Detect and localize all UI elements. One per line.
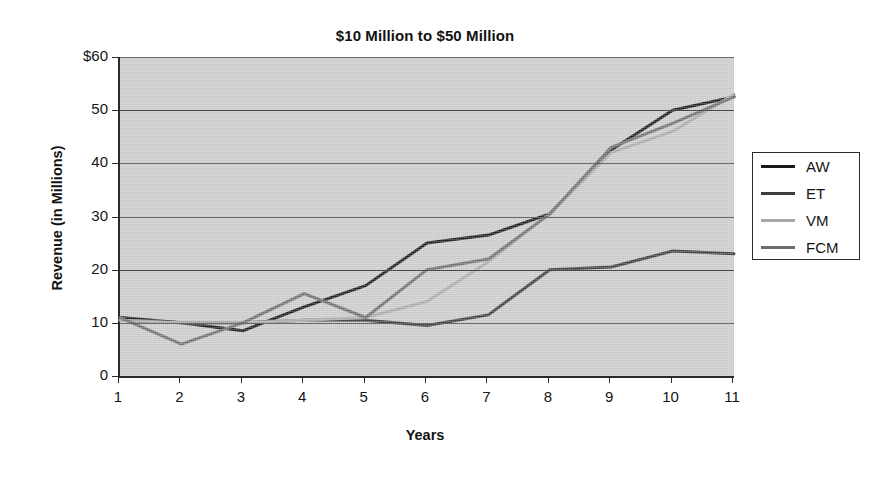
x-axis-label: 3 — [221, 388, 261, 405]
y-axis-tick — [112, 270, 118, 271]
x-axis-label: 6 — [405, 388, 445, 405]
legend-label: FCM — [806, 239, 839, 256]
series-line-et — [120, 251, 734, 325]
y-axis-tick — [112, 217, 118, 218]
x-axis-label: 7 — [466, 388, 506, 405]
x-axis-tick — [302, 376, 303, 383]
series-line-aw — [120, 97, 734, 331]
legend-swatch-icon — [761, 192, 795, 195]
x-axis-tick — [609, 376, 610, 383]
legend-label: ET — [806, 185, 825, 202]
y-axis-label: 10 — [36, 313, 108, 330]
gridline — [120, 323, 734, 324]
x-axis-tick — [671, 376, 672, 383]
x-axis-tick — [241, 376, 242, 383]
legend-label: VM — [806, 212, 829, 229]
x-axis-tick — [364, 376, 365, 383]
legend-label: AW — [806, 158, 830, 175]
y-axis-label: 40 — [36, 153, 108, 170]
x-axis-label: 1 — [98, 388, 138, 405]
y-axis-label: $60 — [36, 47, 108, 64]
x-axis-label: 2 — [159, 388, 199, 405]
series-line-fcm — [120, 97, 734, 344]
y-axis-tick — [112, 163, 118, 164]
legend-item-vm[interactable]: VM — [753, 207, 861, 234]
chart-title: $10 Million to $50 Million — [118, 27, 732, 44]
x-axis-tick — [118, 376, 119, 383]
gridline — [120, 217, 734, 218]
chart-legend: AWETVMFCM — [752, 152, 860, 260]
x-axis-label: 11 — [712, 388, 752, 405]
x-axis-label: 5 — [344, 388, 384, 405]
y-axis-tick — [112, 57, 118, 58]
x-axis-label: 8 — [528, 388, 568, 405]
gridline — [120, 163, 734, 164]
x-axis-label: 4 — [282, 388, 322, 405]
y-axis-label: 0 — [36, 366, 108, 383]
x-axis-label: 9 — [589, 388, 629, 405]
gridline — [120, 270, 734, 271]
legend-swatch-icon — [761, 219, 795, 222]
gridline — [120, 110, 734, 111]
legend-item-fcm[interactable]: FCM — [753, 234, 861, 261]
x-axis-title: Years — [118, 427, 732, 443]
y-axis-label: 50 — [36, 100, 108, 117]
x-axis-tick — [425, 376, 426, 383]
y-axis-label: 20 — [36, 260, 108, 277]
y-axis-label: 30 — [36, 207, 108, 224]
x-axis-tick — [179, 376, 180, 383]
legend-swatch-icon — [761, 165, 795, 168]
y-axis-tick — [112, 110, 118, 111]
x-axis-tick — [732, 376, 733, 383]
x-axis-label: 10 — [651, 388, 691, 405]
x-axis-tick — [486, 376, 487, 383]
legend-swatch-icon — [761, 246, 795, 249]
gridline — [120, 57, 734, 58]
line-chart: $10 Million to $50 Million Revenue (in M… — [0, 0, 896, 480]
legend-item-et[interactable]: ET — [753, 180, 861, 207]
legend-item-aw[interactable]: AW — [753, 153, 861, 180]
y-axis-tick — [112, 323, 118, 324]
x-axis-tick — [548, 376, 549, 383]
plot-area — [118, 57, 734, 378]
